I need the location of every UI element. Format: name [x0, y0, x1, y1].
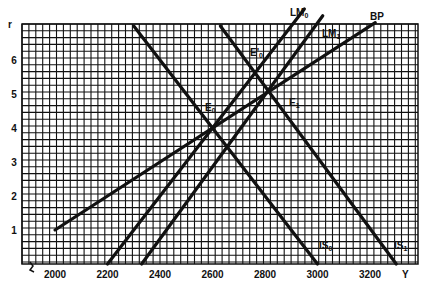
y-tick-label: 6 — [11, 55, 17, 66]
label-e0: E0 — [205, 102, 216, 114]
x-tick-label: 2800 — [254, 269, 277, 280]
label-bp: BP — [370, 11, 384, 22]
y-tick-label: 3 — [11, 157, 17, 168]
x-tick-label: 3200 — [359, 269, 382, 280]
x-tick-label: 3000 — [306, 269, 329, 280]
y-tick-label: 5 — [11, 89, 17, 100]
curves — [55, 9, 396, 264]
x-tick-label: 2000 — [44, 269, 67, 280]
label-lm1: LM1 — [322, 28, 340, 40]
grid — [22, 24, 418, 264]
label-e0-prime: E'0 — [250, 47, 263, 59]
x-tick-label: 2200 — [96, 269, 119, 280]
curve-lm0 — [108, 9, 305, 264]
x-axis-title: Y — [402, 269, 409, 280]
y-tick-label: 2 — [11, 191, 17, 202]
y-tick-label: 4 — [11, 123, 17, 134]
x-tick-label: 2600 — [201, 269, 224, 280]
y-axis-title: r — [8, 19, 12, 30]
y-tick-label: 1 — [11, 225, 17, 236]
x-tick-label: 2400 — [149, 269, 172, 280]
is-lm-bp-chart: 2000220024002600280030003200123456 r Y B… — [0, 0, 428, 285]
